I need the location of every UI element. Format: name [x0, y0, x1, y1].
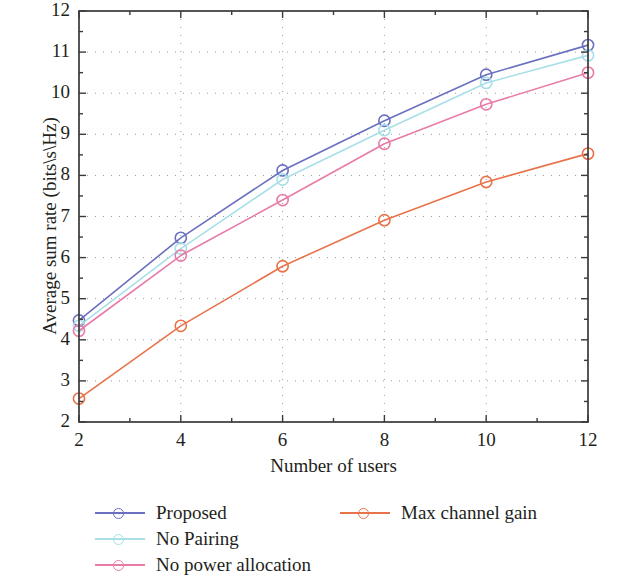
legend-marker-icon: [95, 506, 145, 520]
legend: ProposedNo PairingNo power allocationMax…: [95, 500, 615, 580]
legend-marker-icon: [95, 558, 145, 572]
legend-label: No Pairing: [156, 526, 239, 552]
series-no-power-allocation: [73, 67, 593, 336]
figure: Average sum rate (bits\s\Hz) Number of u…: [0, 0, 622, 583]
legend-item-no-pairing[interactable]: No Pairing: [95, 526, 239, 552]
legend-label: No power allocation: [156, 552, 311, 578]
legend-label: Proposed: [156, 500, 227, 526]
plot-area: [0, 0, 622, 583]
legend-marker-icon: [95, 532, 145, 546]
legend-label: Max channel gain: [401, 500, 537, 526]
legend-item-no-power-allocation[interactable]: No power allocation: [95, 552, 311, 578]
grid-lines: [79, 11, 588, 422]
series-proposed: [73, 40, 593, 327]
legend-marker-icon: [340, 506, 390, 520]
series-max-channel-gain: [73, 148, 593, 404]
legend-item-proposed[interactable]: Proposed: [95, 500, 227, 526]
legend-item-max-channel-gain[interactable]: Max channel gain: [340, 500, 537, 526]
series-no-pairing: [73, 50, 593, 332]
